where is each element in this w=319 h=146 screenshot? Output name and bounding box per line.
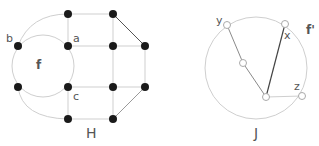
edge-x-center xyxy=(266,24,285,97)
vertex-y xyxy=(224,22,231,29)
outer-face-circle xyxy=(205,17,307,119)
vertex-c xyxy=(64,83,72,91)
label-c: c xyxy=(73,90,79,103)
vertex xyxy=(109,115,117,123)
face-label-f: f xyxy=(36,58,42,72)
vertex xyxy=(240,60,247,67)
edge-diagonal-top xyxy=(113,14,145,46)
diagram-canvas: a b c f H y x z f' J xyxy=(0,0,319,146)
graph-j: y x z f' J xyxy=(205,14,315,141)
label-b: b xyxy=(6,32,13,45)
vertex xyxy=(263,94,270,101)
edge-center-z xyxy=(266,96,302,97)
vertex-a xyxy=(64,42,72,50)
vertex xyxy=(109,10,117,18)
edge-y-m xyxy=(227,25,243,63)
edge-m-center xyxy=(243,63,266,97)
vertex xyxy=(109,83,117,91)
vertex-z xyxy=(299,93,306,100)
label-x: x xyxy=(284,29,291,42)
vertex xyxy=(109,42,117,50)
label-y: y xyxy=(216,14,223,27)
edge-diagonal-bottom xyxy=(113,87,145,119)
graph-caption-h: H xyxy=(86,125,97,141)
label-z: z xyxy=(294,80,300,93)
vertex xyxy=(141,42,149,50)
vertex xyxy=(141,83,149,91)
graph-h: a b c f H xyxy=(6,10,149,141)
vertex xyxy=(64,10,72,18)
label-a: a xyxy=(73,32,80,45)
vertex xyxy=(14,83,22,91)
vertex xyxy=(64,115,72,123)
graph-caption-j: J xyxy=(253,125,258,141)
face-label-f-prime: f' xyxy=(306,23,315,37)
vertex-x xyxy=(282,21,289,28)
edge-b-top xyxy=(18,14,68,46)
vertex-b xyxy=(14,42,22,50)
